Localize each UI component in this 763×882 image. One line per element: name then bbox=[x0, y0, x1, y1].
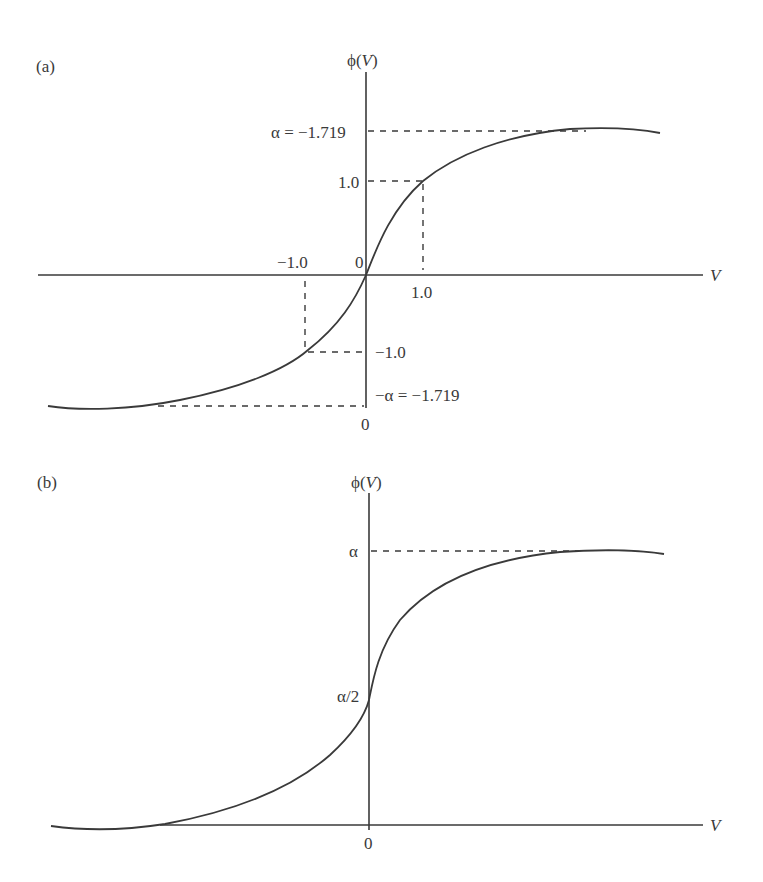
panel-b-label: (b) bbox=[37, 473, 57, 492]
panel-b-alpha-half-label: α/2 bbox=[337, 687, 359, 706]
panel-b-y-axis-label: ϕ(V) bbox=[351, 473, 382, 492]
panel-a-neg-alpha-label: −α = −1.719 bbox=[375, 386, 459, 405]
panel-b-alpha-label: α bbox=[349, 542, 358, 561]
figure-canvas: (a) ϕ(V) V α = −1.719 1.0 0 −1.0 1.0 −1.… bbox=[0, 0, 763, 882]
panel-b-origin-label: 0 bbox=[364, 834, 373, 853]
panel-a-one-y-label: 1.0 bbox=[338, 173, 359, 192]
panel-a: (a) ϕ(V) V α = −1.719 1.0 0 −1.0 1.0 −1.… bbox=[36, 51, 723, 434]
panel-a-label: (a) bbox=[36, 57, 55, 76]
panel-a-y-axis-label: ϕ(V) bbox=[347, 51, 378, 70]
panel-a-origin-label: 0 bbox=[355, 253, 364, 272]
panel-a-neg-one-x-label: −1.0 bbox=[277, 253, 308, 272]
panel-b-x-axis-label: V bbox=[710, 816, 723, 835]
panel-a-neg-one-y-label: −1.0 bbox=[375, 343, 406, 362]
panel-a-one-x-label: 1.0 bbox=[411, 283, 432, 302]
panel-a-x-axis-label: V bbox=[710, 266, 723, 285]
panel-a-bottom-zero-label: 0 bbox=[361, 415, 370, 434]
panel-b: (b) ϕ(V) V α α/2 0 bbox=[37, 473, 723, 853]
panel-a-alpha-pos-label: α = −1.719 bbox=[271, 123, 346, 142]
panel-a-sigmoid-curve bbox=[48, 128, 660, 409]
